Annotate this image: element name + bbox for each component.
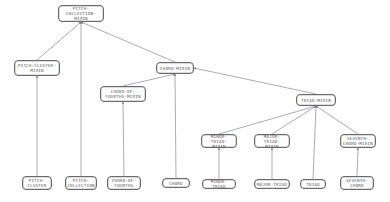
edge-minor-triad-mixin-to-triad-mixin [219,106,316,134]
edge-seventh-chord-mixin-to-triad-mixin [316,106,358,134]
edge-major-triad-mixin-to-triad-mixin [272,106,316,134]
node-minor-triad-mixin: MINOR-TRIAD- MIXIN [201,134,237,148]
edge-seventh-chord-to-seventh-chord-mixin [357,148,358,176]
node-chord: CHORD [162,178,190,188]
edge-triad-mixin-to-chord-mixin [194,68,316,94]
node-chord-of-fourths-mixin: CHORD-OF- FOURTHS-MIXIN [100,86,146,102]
edge-pitch-cluster-mixin-to-pitch-collection-mixin [37,22,81,60]
edge-chord-of-fourths-mixin-to-chord-mixin [123,74,175,86]
edge-triad-to-triad-mixin [313,106,316,179]
node-chord-of-fourths: CHORD-OF- FOURTHS [107,176,141,190]
node-chord-mixin: CHORD-MIXIN [156,62,194,74]
node-minor-triad: MINOR-TRIAD [202,179,236,189]
node-triad-mixin: TRIAD-MIXIN [296,94,336,106]
node-major-triad: MAJOR-TRIAD [254,179,290,189]
edge-chord-of-fourths-to-chord-of-fourths-mixin [123,102,124,176]
node-pitch-cluster: PITCH- CLUSTER [22,176,52,190]
node-pitch-collection: PITCH- COLLECTION [65,176,97,190]
node-pitch-cluster-mixin: PITCH-CLUSTER- MIXIN [14,60,60,76]
edge-chord-to-chord-mixin [175,74,176,178]
edge-chord-mixin-to-pitch-collection-mixin [81,22,175,62]
node-seventh-chord-mixin: SEVENTH- CHORD-MIXIN [340,134,376,148]
node-pitch-collection-mixin: PITCH- COLLECTION-MIXIN [58,5,104,22]
node-major-triad-mixin: MAJOR-TRIAD- MIXIN [254,134,290,148]
node-triad: TRIAD [300,179,326,189]
node-seventh-chord: SEVENTH- CHORD [340,176,374,190]
